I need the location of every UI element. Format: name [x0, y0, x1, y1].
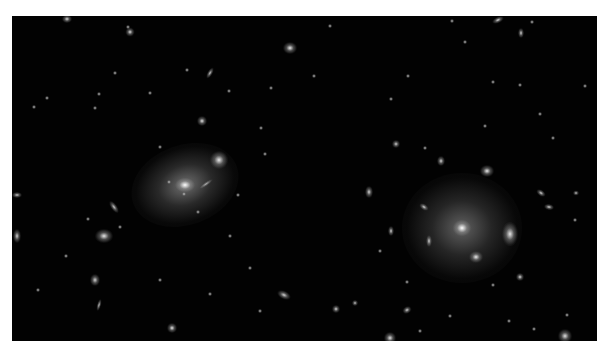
- galaxy: [210, 151, 228, 169]
- star-point: [126, 25, 130, 29]
- star-point: [491, 283, 495, 287]
- galaxy: [108, 200, 121, 215]
- star-point: [158, 278, 162, 282]
- bright-cluster-galaxy: [452, 219, 472, 237]
- galaxy: [167, 323, 177, 333]
- star-point: [113, 71, 117, 75]
- star-point: [507, 319, 511, 323]
- galaxy: [426, 235, 432, 247]
- galaxy: [388, 226, 394, 236]
- star-point: [532, 327, 536, 331]
- star-point: [36, 288, 40, 292]
- star-point: [423, 146, 427, 150]
- star-point: [208, 292, 212, 296]
- star-point: [228, 234, 232, 238]
- galaxy: [95, 229, 113, 243]
- galaxy-cluster-image: [12, 16, 597, 341]
- star-point: [167, 180, 171, 184]
- galaxy: [12, 192, 22, 198]
- star-point: [32, 105, 36, 109]
- galaxy: [197, 116, 207, 126]
- galaxy: [365, 186, 373, 198]
- galaxy: [352, 300, 358, 306]
- galaxy: [502, 222, 518, 246]
- star-point: [263, 152, 267, 156]
- star-point: [530, 20, 534, 24]
- star-point: [45, 96, 49, 100]
- star-point: [236, 193, 240, 197]
- star-point: [86, 217, 90, 221]
- star-point: [118, 225, 122, 229]
- galaxy: [384, 332, 396, 341]
- galaxy: [544, 203, 555, 211]
- star-point: [227, 89, 231, 93]
- star-point: [148, 91, 152, 95]
- star-point: [97, 92, 101, 96]
- star-point: [418, 329, 422, 333]
- star-point: [185, 68, 189, 72]
- galaxy: [469, 251, 483, 263]
- galaxy: [62, 16, 72, 23]
- star-point: [258, 309, 262, 313]
- star-point: [483, 124, 487, 128]
- star-point: [378, 249, 382, 253]
- star-point: [406, 74, 410, 78]
- star-point: [573, 218, 577, 222]
- star-point: [158, 145, 162, 149]
- star-point: [583, 84, 587, 88]
- galaxy: [480, 165, 494, 177]
- galaxy: [276, 288, 292, 301]
- galaxy: [518, 28, 524, 38]
- galaxy: [573, 191, 579, 196]
- star-point: [64, 254, 68, 258]
- star-point: [448, 314, 452, 318]
- galaxy: [401, 305, 412, 316]
- star-point: [389, 97, 393, 101]
- galaxy: [283, 42, 297, 54]
- star-point: [551, 136, 555, 140]
- star-point: [491, 80, 495, 84]
- galaxy: [13, 229, 21, 243]
- star-point: [565, 313, 569, 317]
- galaxy: [205, 67, 215, 80]
- galaxy: [491, 16, 504, 25]
- star-point: [182, 192, 186, 196]
- star-point: [518, 83, 522, 87]
- galaxy: [437, 156, 445, 166]
- galaxy: [558, 329, 572, 341]
- star-point: [259, 126, 263, 130]
- star-point: [450, 19, 454, 23]
- star-point: [538, 112, 542, 116]
- star-point: [93, 106, 97, 110]
- star-point: [312, 74, 316, 78]
- star-point: [248, 266, 252, 270]
- star-point: [269, 86, 273, 90]
- galaxy: [90, 274, 100, 286]
- bright-cluster-galaxy: [174, 177, 196, 193]
- galaxy: [96, 299, 103, 312]
- star-point: [405, 280, 409, 284]
- star-point: [328, 24, 332, 28]
- galaxy: [332, 305, 340, 313]
- galaxy: [516, 273, 524, 281]
- star-point: [196, 210, 200, 214]
- star-point: [463, 40, 467, 44]
- galaxy: [392, 140, 400, 148]
- galaxy: [535, 188, 547, 199]
